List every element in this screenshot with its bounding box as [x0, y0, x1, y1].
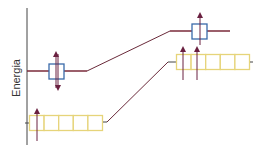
orbital-box	[73, 116, 88, 131]
orbital-box	[59, 116, 74, 131]
orbital-box	[177, 55, 192, 70]
connector-upper	[87, 31, 170, 71]
energy-level-diagram: Energia	[0, 0, 265, 154]
orbital-box	[44, 116, 59, 131]
left-upper-level	[27, 54, 87, 88]
orbital-box	[88, 116, 103, 131]
right-upper-level	[170, 15, 230, 45]
left-lower-level	[25, 111, 107, 141]
orbital-box	[206, 55, 221, 70]
orbital-box	[235, 55, 250, 70]
right-lower-level	[168, 49, 253, 80]
energy-axis-label: Energia	[10, 58, 22, 97]
orbital-box	[220, 55, 235, 70]
connector-lower	[107, 62, 168, 122]
orbital-box	[191, 55, 206, 70]
